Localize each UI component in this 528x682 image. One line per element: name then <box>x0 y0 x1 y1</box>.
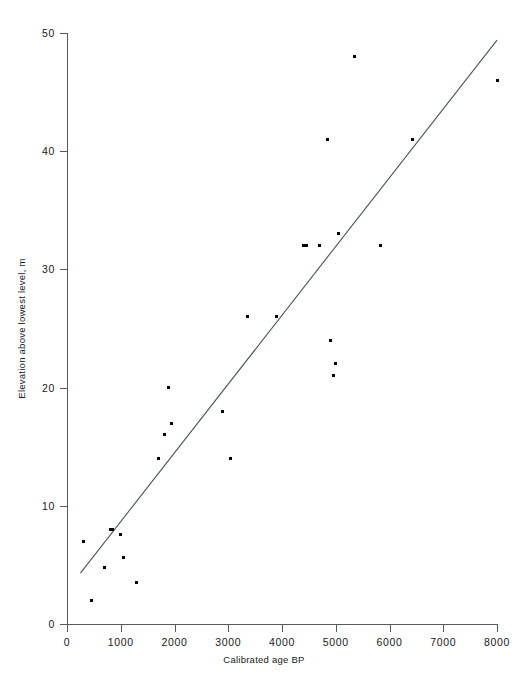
x-tick-mark <box>336 625 337 632</box>
x-tick-mark <box>282 625 283 632</box>
data-point <box>329 339 332 342</box>
data-point <box>167 386 170 389</box>
data-point <box>334 362 337 365</box>
x-tick-label: 0 <box>37 637 97 648</box>
x-tick-mark <box>390 625 391 632</box>
data-point <box>103 566 106 569</box>
y-tick-mark <box>60 33 67 34</box>
x-tick-mark <box>67 625 68 632</box>
x-tick-mark <box>121 625 122 632</box>
x-tick-label: 4000 <box>252 637 312 648</box>
x-tick-label: 2000 <box>145 637 205 648</box>
x-tick-mark <box>497 625 498 632</box>
data-point <box>337 232 340 235</box>
data-point <box>496 79 499 82</box>
data-point <box>135 581 138 584</box>
x-tick-label: 7000 <box>413 637 473 648</box>
x-tick-label: 1000 <box>91 637 151 648</box>
data-point <box>163 433 166 436</box>
data-point <box>119 533 122 536</box>
regression-line <box>80 40 497 573</box>
data-point <box>318 244 321 247</box>
data-point <box>332 374 335 377</box>
scatter-chart-figure: 01020304050 0100020003000400050006000700… <box>0 0 528 682</box>
data-point <box>157 457 160 460</box>
y-tick-mark <box>60 506 67 507</box>
data-point <box>326 138 329 141</box>
x-tick-mark <box>228 625 229 632</box>
data-point <box>122 556 125 559</box>
data-point <box>170 422 173 425</box>
regression-line-layer <box>0 0 528 682</box>
data-point <box>353 55 356 58</box>
y-tick-mark <box>60 269 67 270</box>
data-point <box>411 138 414 141</box>
data-point <box>305 244 308 247</box>
data-point <box>379 244 382 247</box>
y-tick-mark <box>60 151 67 152</box>
y-axis-title: Elevation above lowest level, m <box>16 33 30 624</box>
data-point <box>90 599 93 602</box>
x-tick-label: 8000 <box>467 637 527 648</box>
data-point <box>111 528 114 531</box>
data-point <box>275 315 278 318</box>
y-tick-mark <box>60 624 67 625</box>
x-axis-title: Calibrated age BP <box>0 654 528 665</box>
data-point <box>82 540 85 543</box>
data-point <box>246 315 249 318</box>
data-point <box>221 410 224 413</box>
x-tick-label: 3000 <box>198 637 258 648</box>
x-tick-label: 5000 <box>306 637 366 648</box>
data-point <box>229 457 232 460</box>
x-tick-mark <box>175 625 176 632</box>
x-tick-label: 6000 <box>360 637 420 648</box>
y-tick-mark <box>60 388 67 389</box>
y-axis-line <box>67 33 68 625</box>
x-tick-mark <box>443 625 444 632</box>
